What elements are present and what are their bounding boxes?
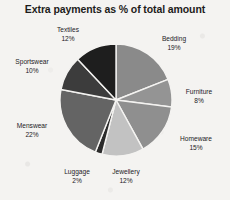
slice-label-homeware-value: 15% bbox=[172, 144, 220, 153]
slice-label-furniture-value: 8% bbox=[176, 97, 222, 106]
pie-chart-figure: Extra payments as % of total amount Text… bbox=[0, 0, 230, 200]
chart-title: Extra payments as % of total amount bbox=[0, 3, 230, 15]
slice-label-sportswear-value: 10% bbox=[8, 67, 56, 76]
slice-label-homeware-name: Homeware bbox=[180, 135, 212, 142]
slice-label-textiles-name: Textiles bbox=[57, 26, 79, 33]
slice-label-sportswear: Sportswear 10% bbox=[8, 58, 56, 75]
slice-label-menswear-name: Menswear bbox=[17, 122, 47, 129]
slice-label-bedding: Bedding 19% bbox=[152, 35, 196, 52]
slice-label-textiles-value: 12% bbox=[46, 35, 90, 44]
slice-label-furniture-name: Furniture bbox=[186, 88, 212, 95]
slice-label-bedding-name: Bedding bbox=[162, 35, 186, 42]
slice-label-luggage: Luggage 2% bbox=[56, 168, 98, 185]
slice-label-bedding-value: 19% bbox=[152, 44, 196, 53]
slice-label-jewellery: Jewellery 12% bbox=[103, 168, 149, 185]
slice-label-menswear: Menswear 22% bbox=[9, 122, 55, 139]
pie-svg bbox=[58, 42, 174, 158]
slice-label-jewellery-value: 12% bbox=[103, 177, 149, 186]
slice-label-jewellery-name: Jewellery bbox=[112, 168, 139, 175]
slice-label-sportswear-name: Sportswear bbox=[15, 58, 48, 65]
pie-slice-group bbox=[60, 44, 172, 156]
slice-label-homeware: Homeware 15% bbox=[172, 135, 220, 152]
slice-label-textiles: Textiles 12% bbox=[46, 26, 90, 43]
slice-label-furniture: Furniture 8% bbox=[176, 88, 222, 105]
slice-label-luggage-value: 2% bbox=[56, 177, 98, 186]
pie-graphic bbox=[58, 42, 174, 158]
slice-label-luggage-name: Luggage bbox=[64, 168, 90, 175]
slice-label-menswear-value: 22% bbox=[9, 131, 55, 140]
